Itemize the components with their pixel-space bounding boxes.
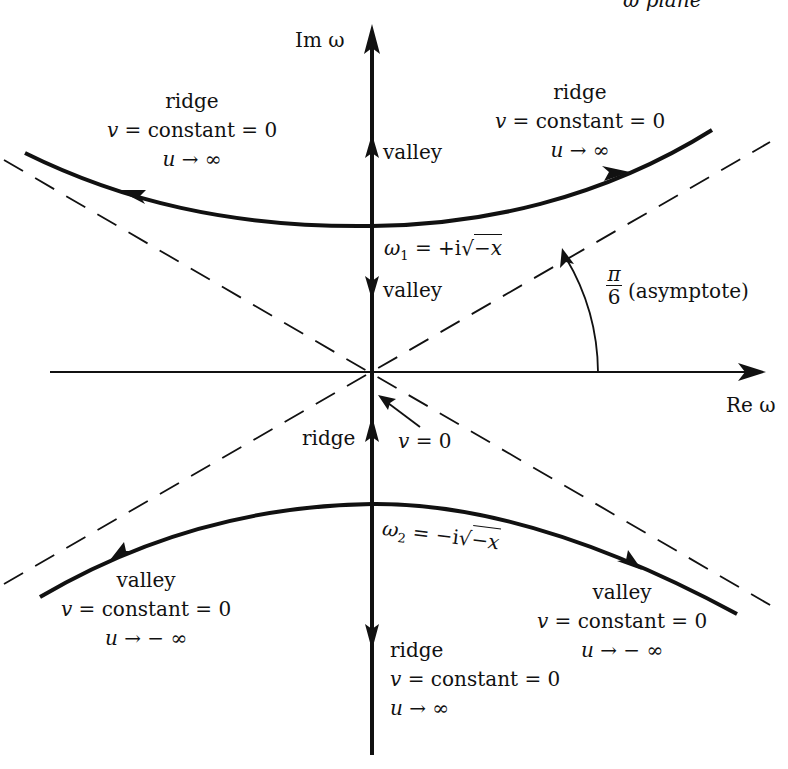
angle-note: (asymptote) (628, 281, 749, 301)
region-lower-right: valley v = constant = 0 u → − ∞ (537, 578, 707, 665)
angle-arc-arrowhead-icon (560, 248, 574, 268)
region-title: valley (61, 566, 231, 595)
imag-axis-label: Im ω (295, 30, 345, 50)
plane-label-clipped: ω plane (623, 0, 702, 12)
angle-fraction: π 6 (606, 264, 622, 307)
region-upper-right: ridge v = constant = 0 u → ∞ (495, 78, 665, 165)
sqrt-icon: √ (461, 236, 474, 260)
region-lower-left: valley v = constant = 0 u → − ∞ (61, 566, 231, 653)
angle-arc (566, 258, 598, 372)
region-title: valley (537, 578, 707, 607)
axis-label-valley-lower: valley (383, 280, 442, 300)
saddle-point-upper-label: ω1 = +i√−x (384, 238, 502, 262)
origin-note: v = 0 (368, 431, 452, 451)
region-title: ridge (390, 636, 560, 665)
region-title: ridge (495, 78, 665, 107)
region-bottom: ridge v = constant = 0 u → ∞ (390, 636, 560, 723)
region-title: ridge (107, 87, 277, 116)
axis-label-ridge: ridge (302, 428, 355, 448)
region-upper-left: ridge v = constant = 0 u → ∞ (107, 87, 277, 174)
axis-label-valley-upper: valley (383, 142, 442, 162)
real-axis-label: Re ω (726, 395, 776, 415)
asymptote-negative-slope (4, 160, 782, 612)
